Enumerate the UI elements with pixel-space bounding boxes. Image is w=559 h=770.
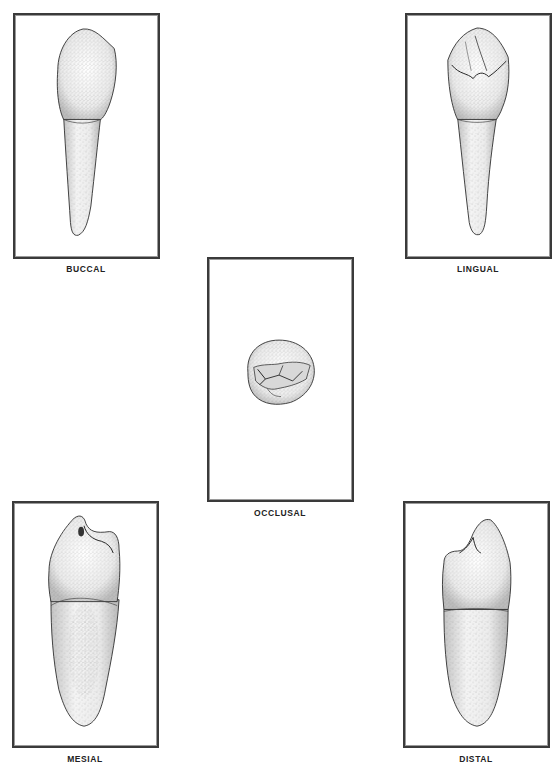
- lingual-view-panel: [405, 13, 552, 259]
- tooth-occlusal-illustration: [209, 259, 352, 500]
- buccal-label: BUCCAL: [6, 264, 166, 274]
- mesial-view-panel: [12, 501, 159, 748]
- tooth-lingual-illustration: [407, 15, 550, 257]
- buccal-view-panel: [13, 13, 160, 259]
- occlusal-view-panel: [207, 257, 354, 502]
- lingual-label: LINGUAL: [398, 264, 558, 274]
- distal-label: DISTAL: [396, 754, 556, 764]
- distal-view-panel: [403, 501, 550, 748]
- root-concavity: [68, 604, 99, 697]
- tooth-mesial-illustration: [14, 503, 157, 746]
- tooth-distal-illustration: [405, 503, 548, 746]
- occlusal-label: OCCLUSAL: [200, 508, 360, 518]
- mesial-label: MESIAL: [5, 754, 165, 764]
- tooth-buccal-illustration: [15, 15, 158, 257]
